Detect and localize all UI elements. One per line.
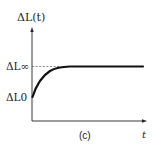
y-axis-label: ΔL(t) — [17, 11, 45, 24]
x-axis — [32, 119, 147, 122]
asymptote-label: ΔL∞ — [6, 60, 29, 72]
diagram-canvas: ΔL(t) ΔL∞ ΔL0 t (c) — [0, 0, 152, 145]
y-axis-arrow-icon — [30, 27, 33, 32]
x-axis-arrow-icon — [142, 119, 147, 122]
initial-value-label: ΔL0 — [6, 91, 27, 103]
panel-label: (c) — [79, 130, 91, 141]
response-curve — [33, 67, 144, 98]
y-axis — [30, 27, 33, 121]
x-axis-label: t — [142, 129, 147, 140]
